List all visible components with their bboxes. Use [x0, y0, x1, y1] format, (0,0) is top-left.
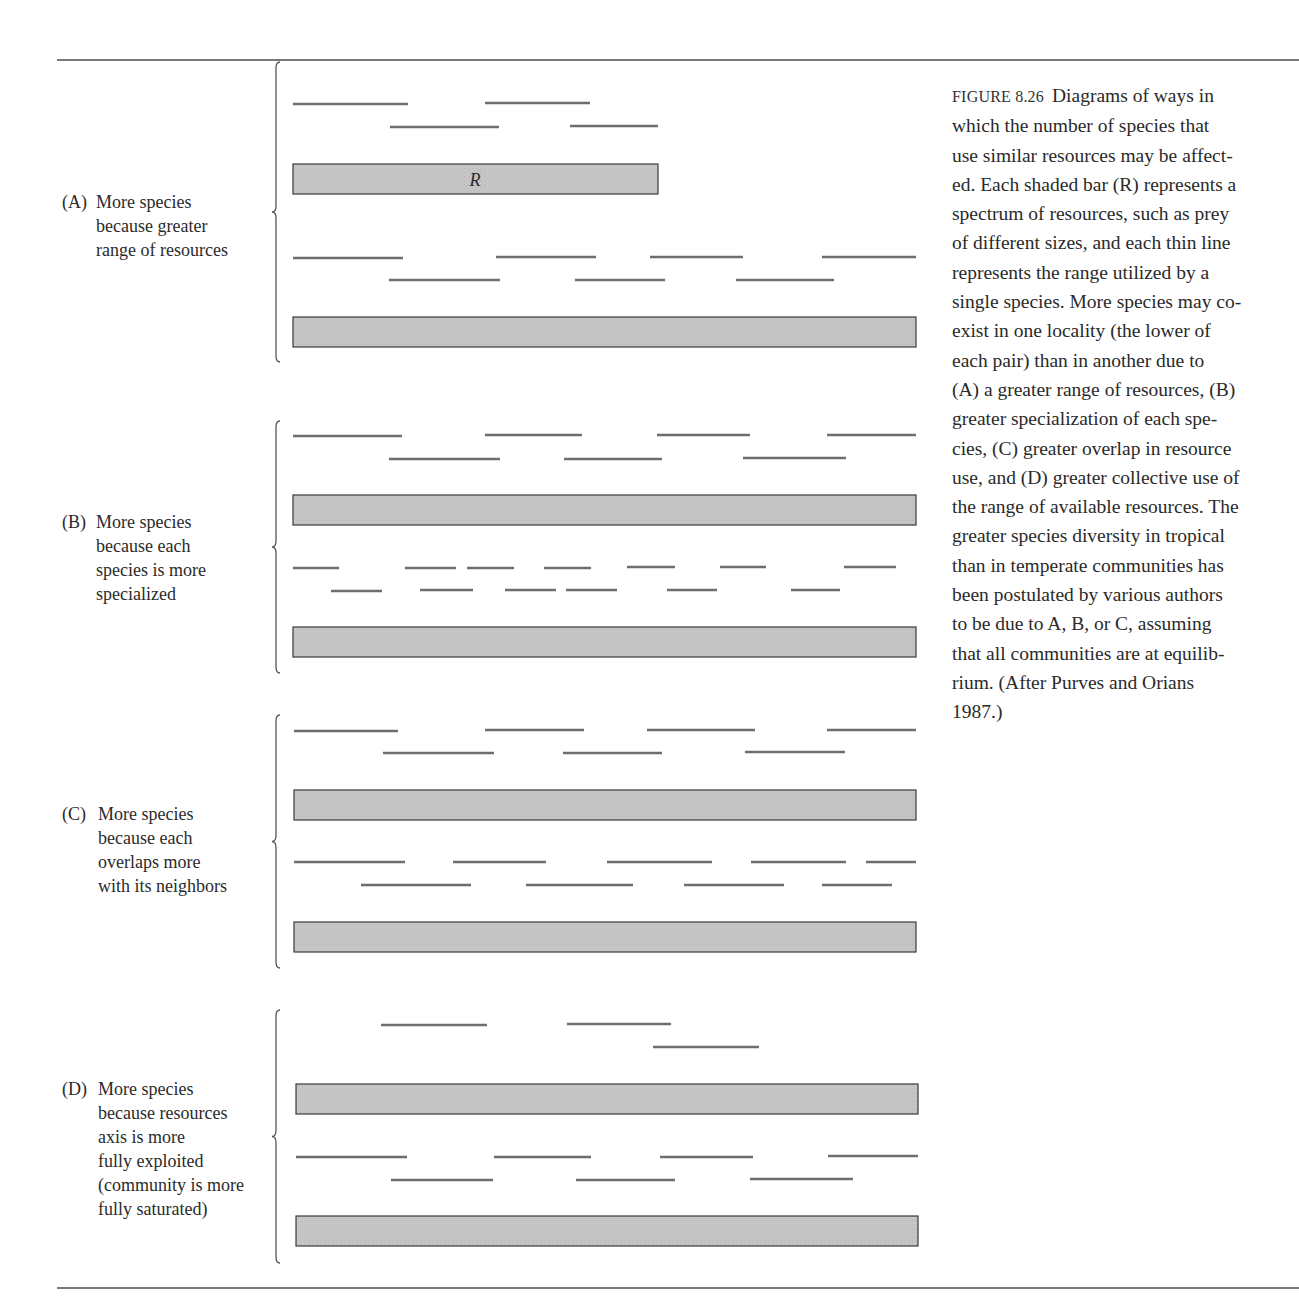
resource-bar-label: R [469, 170, 481, 190]
caption-line: single species. More species may co- [952, 287, 1299, 316]
panel-description: More species because greater range of re… [96, 190, 228, 262]
caption-line: represents the range utilized by a [952, 258, 1299, 287]
resource-bar [294, 922, 916, 952]
panel-letter: (A) [62, 190, 87, 214]
caption-line: (A) a greater range of resources, (B) [952, 375, 1299, 404]
community-lower [293, 567, 916, 657]
panel-d [272, 1010, 918, 1263]
panel-letter: (B) [62, 510, 86, 534]
resource-bar [296, 1084, 918, 1114]
caption-line: each pair) than in another due to [952, 346, 1299, 375]
resource-bar [293, 627, 916, 657]
panel-description: More species because each overlaps more … [98, 802, 227, 898]
caption-line: which the number of species that [952, 111, 1299, 140]
panel-a: R [272, 62, 916, 362]
caption-line: use, and (D) greater collective use of [952, 463, 1299, 492]
community-lower [294, 862, 916, 952]
caption-line: 1987.) [952, 697, 1299, 726]
panel-letter: (D) [62, 1077, 87, 1101]
caption-line: been postulated by various authors [952, 580, 1299, 609]
curly-brace-icon [272, 1010, 280, 1263]
caption-line: use similar resources may be affect- [952, 141, 1299, 170]
caption-line: ed. Each shaded bar (R) represents a [952, 170, 1299, 199]
resource-bar [293, 495, 916, 525]
caption-line: the range of available resources. The [952, 492, 1299, 521]
caption-line: exist in one locality (the lower of [952, 316, 1299, 345]
community-lower [293, 257, 916, 347]
curly-brace-icon [272, 421, 280, 673]
caption-line: of different sizes, and each thin line [952, 228, 1299, 257]
community-upper: R [293, 103, 658, 194]
resource-bar [294, 790, 916, 820]
caption-line: to be due to A, B, or C, assuming [952, 609, 1299, 638]
caption-first-line: FIGURE 8.26Diagrams of ways in [952, 81, 1299, 111]
caption-line: greater species diversity in tropical [952, 521, 1299, 550]
curly-brace-icon [272, 62, 280, 362]
caption-line: that all communities are at equilib- [952, 639, 1299, 668]
caption-line: cies, (C) greater overlap in resource [952, 434, 1299, 463]
panel-c [272, 715, 916, 968]
curly-brace-icon [272, 715, 280, 968]
caption-text: Diagrams of ways in [1052, 85, 1214, 106]
figure-caption: FIGURE 8.26Diagrams of ways in which the… [952, 81, 1299, 727]
resource-bar [296, 1216, 918, 1246]
panel-description: More species because each species is mor… [96, 510, 206, 606]
caption-line: greater specialization of each spe- [952, 404, 1299, 433]
caption-line: spectrum of resources, such as prey [952, 199, 1299, 228]
community-upper [294, 730, 916, 820]
panel-letter: (C) [62, 802, 86, 826]
community-upper [293, 435, 916, 525]
panel-description: More species because resources axis is m… [98, 1077, 244, 1221]
caption-line: rium. (After Purves and Orians [952, 668, 1299, 697]
resource-bar [293, 317, 916, 347]
caption-line: than in temperate communities has [952, 551, 1299, 580]
community-lower [296, 1156, 918, 1246]
panel-b [272, 421, 916, 673]
community-upper [296, 1024, 918, 1114]
figure-number: FIGURE 8.26 [952, 88, 1044, 105]
